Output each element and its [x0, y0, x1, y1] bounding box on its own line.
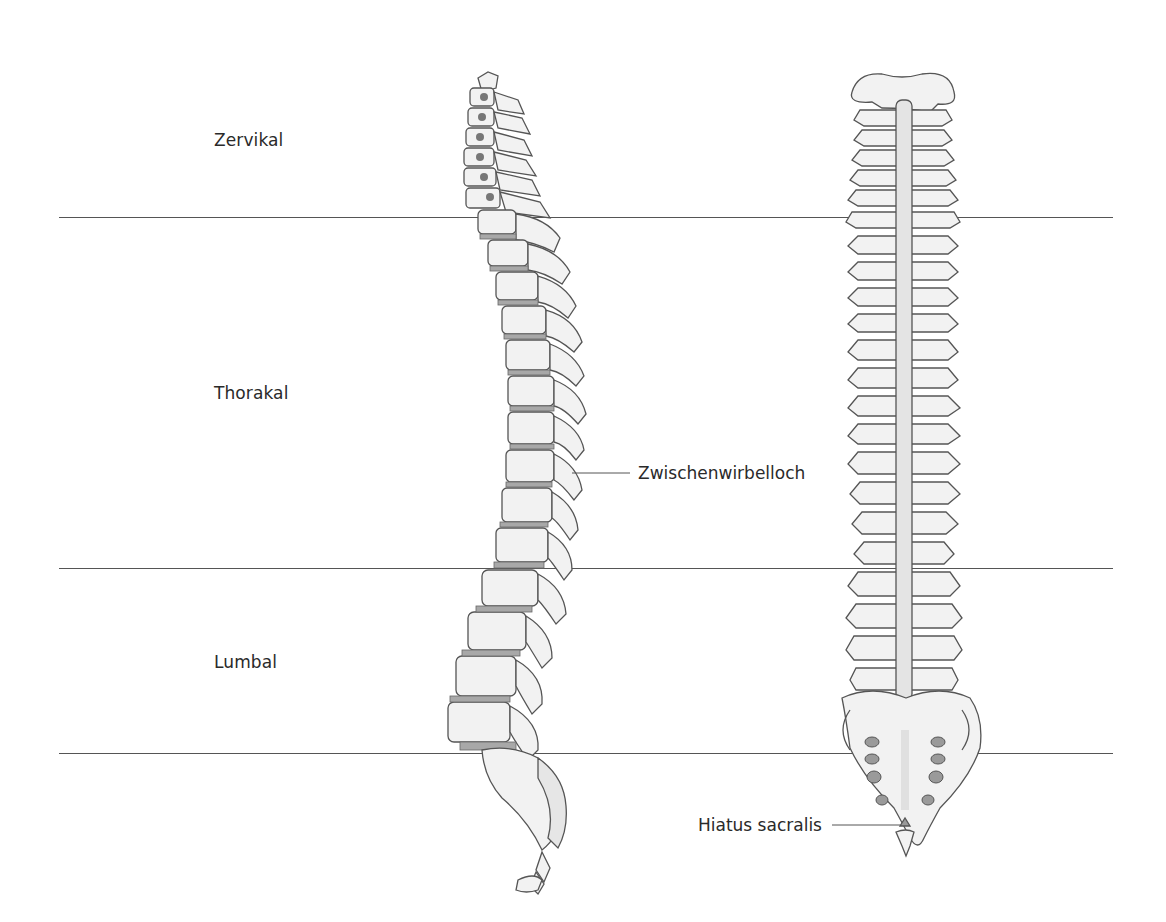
callout-label-hiatus-sacralis: Hiatus sacralis: [698, 815, 822, 835]
spine-diagram: Zervikal Thorakal Lumbal: [0, 0, 1166, 922]
callout-label-zwischenwirbelloch: Zwischenwirbelloch: [638, 463, 805, 483]
callout-leaders: [0, 0, 1166, 922]
